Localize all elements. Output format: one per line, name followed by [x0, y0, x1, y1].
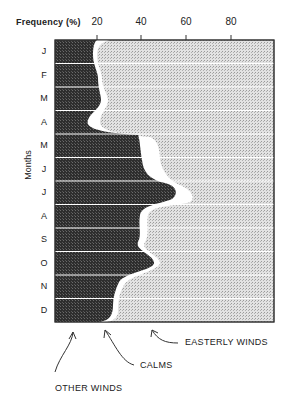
- month-label: J: [38, 46, 50, 56]
- easterly-winds-label: EASTERLY WINDS: [185, 337, 268, 347]
- x-ticks: [97, 35, 231, 40]
- chart-svg: [0, 0, 294, 413]
- month-label: F: [38, 70, 50, 80]
- month-label: S: [38, 234, 50, 244]
- month-label: N: [38, 281, 50, 291]
- month-label: A: [38, 117, 50, 127]
- month-label: M: [38, 140, 50, 150]
- x-tick-60: 60: [180, 16, 191, 27]
- month-label: M: [38, 93, 50, 103]
- month-label: A: [38, 211, 50, 221]
- x-tick-20: 20: [91, 16, 102, 27]
- x-tick-40: 40: [135, 16, 146, 27]
- month-label: D: [38, 305, 50, 315]
- y-axis-title: Months: [23, 150, 33, 180]
- x-tick-80: 80: [225, 16, 236, 27]
- calms-arrow-icon: [105, 330, 134, 365]
- month-label: J: [38, 164, 50, 174]
- x-axis-title: Frequency (%): [16, 17, 81, 27]
- month-label: O: [38, 258, 50, 268]
- calms-label: CALMS: [140, 360, 173, 370]
- other-winds-label: OTHER WINDS: [55, 383, 122, 393]
- other-winds-arrow-icon: [55, 332, 73, 372]
- month-label: J: [38, 187, 50, 197]
